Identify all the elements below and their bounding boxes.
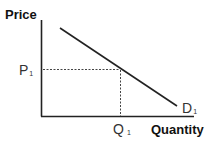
p1-label-sub: 1 bbox=[29, 70, 33, 77]
p1-label-main: P bbox=[19, 62, 28, 78]
y-axis-label: Price bbox=[5, 8, 37, 21]
d1-label: D1 bbox=[182, 101, 197, 115]
q1-label-sub: 1 bbox=[127, 129, 131, 136]
x-axis-label: Quantity bbox=[151, 123, 204, 136]
q1-label-main: Q bbox=[113, 121, 124, 137]
d1-label-main: D bbox=[182, 100, 192, 116]
p1-label: P1 bbox=[19, 63, 33, 77]
demand-curve-d1 bbox=[60, 28, 177, 106]
d1-label-sub: 1 bbox=[193, 108, 197, 115]
q1-label: Q1 bbox=[113, 122, 131, 136]
